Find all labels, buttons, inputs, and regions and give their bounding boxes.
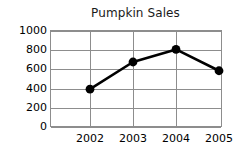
y-tick-label: 1000 (0, 24, 47, 37)
y-tick-label: 200 (0, 101, 47, 114)
y-tick-label: 400 (0, 82, 47, 95)
plot-area (50, 30, 222, 127)
x-tick-label: 2005 (205, 132, 233, 145)
chart-screenshot: Pumpkin Sales 1000 800 600 400 200 0 200… (0, 0, 249, 156)
gridline-vertical-2004 (176, 31, 177, 126)
gridline-horizontal-400 (51, 89, 221, 90)
gridline-vertical-2003 (133, 31, 134, 126)
y-tick-label: 800 (0, 43, 47, 56)
gridline-horizontal-600 (51, 69, 221, 70)
gridline-horizontal-800 (51, 50, 221, 51)
y-tick-label: 0 (0, 120, 47, 133)
gridline-horizontal-1000 (51, 31, 221, 32)
x-tick-label: 2003 (119, 132, 147, 145)
x-tick-label: 2004 (162, 132, 190, 145)
y-axis-tick-labels: 1000 800 600 400 200 0 (0, 0, 47, 156)
x-tick-label: 2002 (76, 132, 104, 145)
gridline-horizontal-200 (51, 108, 221, 109)
gridline-horizontal-0 (51, 127, 221, 128)
y-tick-label: 600 (0, 62, 47, 75)
gridline-vertical-2002 (90, 31, 91, 126)
